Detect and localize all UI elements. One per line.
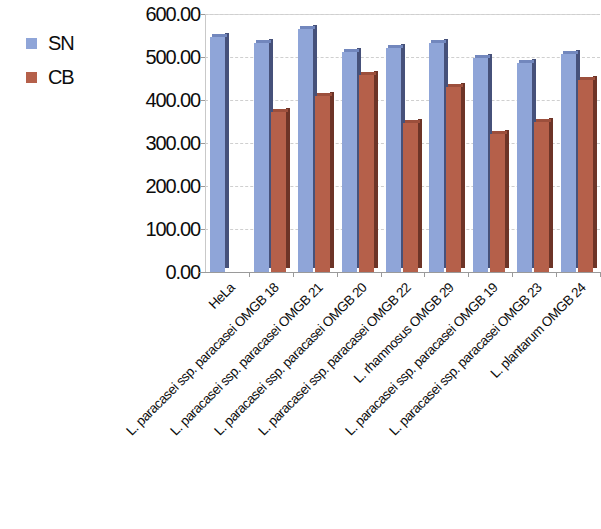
bar-cb: [578, 80, 593, 272]
y-tick-label: 600.00: [145, 3, 200, 26]
bar-sn: [298, 29, 313, 272]
bar-front-face: [403, 123, 418, 272]
x-axis-label: L. paracasei ssp. paracasei OMGB 20: [0, 280, 369, 529]
legend-label-sn: SN: [48, 32, 73, 55]
bar-front-face: [271, 112, 286, 272]
bar-cb: [315, 96, 330, 272]
x-axis-labels: HeLaL. paracasei ssp. paracasei OMGB 18L…: [0, 272, 600, 529]
bar-group: [556, 14, 600, 272]
bar-side-face: [374, 71, 378, 268]
bar-group: [205, 14, 249, 272]
bar-front-face: [359, 75, 374, 272]
bar-side-face: [461, 83, 465, 268]
bar-group: [512, 14, 556, 272]
bar-front-face: [210, 37, 225, 272]
bar-sn: [561, 54, 576, 272]
bar-sn: [429, 43, 444, 272]
bar-front-face: [561, 54, 576, 272]
legend-label-cb: CB: [48, 66, 73, 89]
bar-cb: [446, 87, 461, 272]
bar-front-face: [517, 63, 532, 272]
y-tick-label: 500.00: [145, 46, 200, 69]
bar-group: [249, 14, 293, 272]
plot-area: [205, 14, 600, 272]
bar-cb: [403, 123, 418, 272]
y-tick-label: 400.00: [145, 89, 200, 112]
legend-swatch-sn: [26, 38, 37, 49]
bar-front-face: [446, 87, 461, 272]
bar-front-face: [534, 122, 549, 273]
bar-cb: [490, 134, 505, 272]
bar-front-face: [315, 96, 330, 272]
bar-front-face: [386, 48, 401, 272]
bar-front-face: [473, 58, 488, 272]
bar-sn: [473, 58, 488, 272]
bar-group: [381, 14, 425, 272]
bar-front-face: [490, 134, 505, 272]
bar-side-face: [330, 92, 334, 268]
y-axis: 0.00100.00200.00300.00400.00500.00600.00: [118, 0, 200, 290]
bar-front-face: [254, 43, 269, 272]
bar-side-face: [505, 130, 509, 268]
bar-sn: [254, 43, 269, 272]
bar-group: [468, 14, 512, 272]
bar-sn: [342, 52, 357, 272]
bar-front-face: [429, 43, 444, 272]
y-tick-label: 100.00: [145, 218, 200, 241]
bar-cb: [271, 112, 286, 272]
bar-side-face: [225, 33, 229, 268]
bar-group: [424, 14, 468, 272]
bar-sn: [210, 37, 225, 272]
bar-side-face: [418, 119, 422, 268]
bar-group: [337, 14, 381, 272]
bar-front-face: [578, 80, 593, 272]
bar-group: [293, 14, 337, 272]
y-tick-label: 200.00: [145, 175, 200, 198]
bar-sn: [386, 48, 401, 272]
bar-front-face: [342, 52, 357, 272]
bar-sn: [517, 63, 532, 272]
y-tick-label: 300.00: [145, 132, 200, 155]
bar-front-face: [298, 29, 313, 272]
bar-cb: [534, 122, 549, 273]
legend-swatch-cb: [26, 72, 37, 83]
bar-cb: [359, 75, 374, 272]
bar-side-face: [593, 76, 597, 268]
bar-side-face: [549, 118, 553, 269]
bar-side-face: [286, 108, 290, 268]
